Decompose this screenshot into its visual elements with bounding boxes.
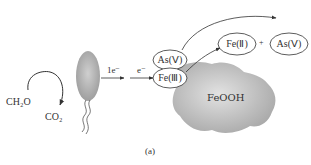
- fe-ii-product-label: Fe(Ⅱ): [218, 39, 256, 49]
- flagellum-2: [86, 100, 90, 134]
- flagellum-1: [82, 100, 86, 132]
- oxidation-arrow: [28, 72, 63, 105]
- bacterium-body: [76, 51, 100, 101]
- panel-label: (a): [145, 147, 155, 156]
- as-v-product-label: As(Ⅴ): [270, 39, 308, 49]
- feooh-label: FeOOH: [207, 93, 244, 103]
- plus-sign: +: [259, 39, 264, 47]
- electron-label-1: 1e⁻: [107, 66, 121, 75]
- as-v-surface-label: As(Ⅴ): [153, 55, 187, 65]
- electron-label-2: e⁻: [137, 66, 146, 75]
- co2-label: CO₂: [45, 112, 62, 122]
- ch2o-label: CH₂O: [6, 97, 31, 107]
- fe-iii-surface-label: Fe(Ⅲ): [153, 73, 187, 83]
